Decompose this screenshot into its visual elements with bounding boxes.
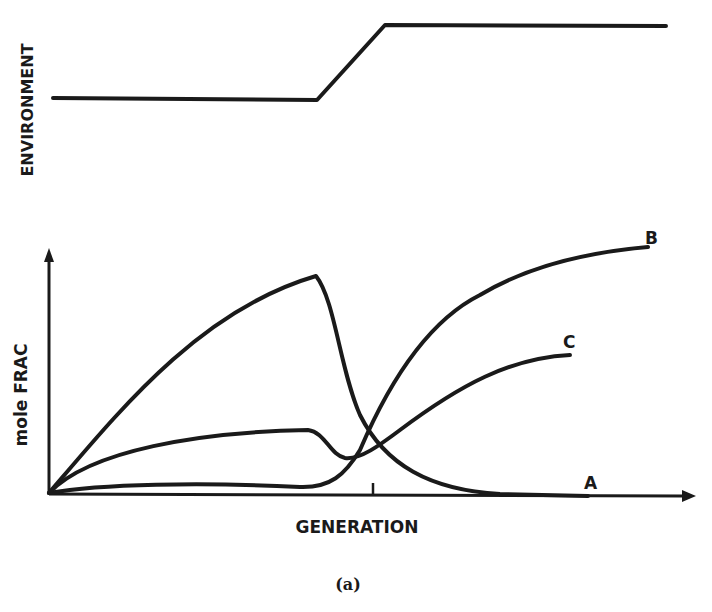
y-axis-arrowhead (44, 248, 54, 262)
curve-b (49, 247, 648, 493)
x-axis-arrowhead (682, 490, 696, 502)
curve-b-label: B (645, 228, 658, 248)
environment-line (53, 25, 666, 100)
curve-a (49, 276, 588, 496)
curve-c (49, 355, 570, 493)
y-axis-label: mole FRAC (11, 343, 31, 446)
figure-caption: (a) (335, 575, 361, 594)
curve-c-label: C (563, 332, 575, 352)
x-axis-label: GENERATION (296, 517, 419, 537)
curve-a-label: A (584, 473, 598, 493)
environment-axis-label: ENVIRONMENT (18, 43, 37, 176)
figure: ENVIRONMENT mole FRAC A B C GENERATION (… (0, 0, 712, 612)
